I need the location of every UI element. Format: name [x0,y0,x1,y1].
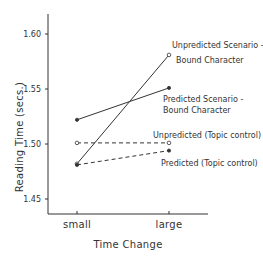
annotation-unpredicted-scenario-line1: Unpredicted Scenario - [172,41,263,50]
filled-circle-marker-icon [167,86,170,89]
filled-circle-marker-icon [75,118,78,121]
series-group [75,53,171,166]
x-axis-title: Time Change [92,239,162,250]
filled-circle-marker-icon [167,149,170,152]
y-tick-label: 1.55 [23,85,41,94]
annotation-predicted-scenario-line1: Predicted Scenario - [163,95,243,104]
annotation-unpredicted-topic: Unpredicted (Topic control) [153,131,261,140]
y-tick-label: 1.50 [23,140,41,149]
open-circle-marker-icon [167,53,171,57]
annotation-unpredicted-scenario-line2: Bound Character [176,56,244,65]
y-ticks: 1.451.501.551.60 [23,30,48,204]
series-line [77,88,169,120]
x-tick-label: large [156,219,183,230]
open-circle-marker-icon [167,141,171,145]
y-axis-title: Reading Time (secs.) [14,82,25,192]
y-tick-label: 1.60 [23,30,41,39]
y-tick-label: 1.45 [23,195,41,204]
x-tick-label: small [63,219,91,230]
line-chart: 1.451.501.551.60 smalllarge Time Change … [0,0,263,262]
annotation-predicted-scenario-line2: Bound Character [163,106,231,115]
series-line [77,151,169,165]
filled-circle-marker-icon [75,163,78,166]
open-circle-marker-icon [75,141,79,145]
annotation-predicted-topic: Predicted (Topic control) [161,159,258,168]
series-line [77,55,169,164]
